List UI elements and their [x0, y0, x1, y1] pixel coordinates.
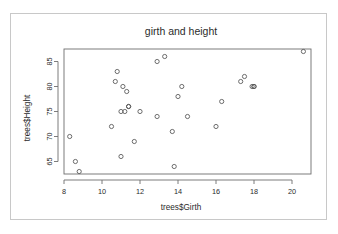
y-axis-title: trees$Height	[23, 94, 32, 141]
y-axis-tick-label: 85	[45, 57, 54, 65]
scatter-point	[180, 84, 184, 88]
y-axis-tick-label: 80	[45, 82, 54, 90]
scatter-point	[125, 89, 129, 93]
x-axis-tick-label: 10	[98, 187, 106, 196]
scatter-point	[242, 74, 246, 78]
plot-card: girth and height trees$Girth trees$Heigh…	[10, 13, 327, 220]
x-axis: 8101214161820	[62, 180, 296, 196]
y-axis-tick-label: 75	[45, 107, 54, 115]
scatter-point	[138, 109, 142, 113]
chart-title: girth and height	[145, 25, 217, 37]
x-axis-tick-label: 12	[136, 187, 144, 196]
scatter-point	[73, 159, 77, 163]
scatter-point	[176, 94, 180, 98]
scatter-point	[155, 114, 159, 118]
y-axis: 6570758085	[45, 57, 59, 165]
scatter-point	[119, 154, 123, 158]
plot-canvas: girth and height trees$Girth trees$Heigh…	[11, 14, 328, 221]
scatter-point	[132, 139, 136, 143]
x-axis-tick-label: 16	[212, 187, 220, 196]
scatter-point	[127, 104, 131, 108]
scatter-point	[185, 114, 189, 118]
scatter-point	[115, 69, 119, 73]
scatter-point	[68, 134, 72, 138]
screenshot-root: girth and height trees$Girth trees$Heigh…	[0, 0, 338, 234]
scatter-point	[172, 164, 176, 168]
scatter-point	[77, 169, 81, 173]
scatter-point	[163, 54, 167, 58]
scatter-point	[113, 79, 117, 83]
scatter-point	[220, 99, 224, 103]
y-axis-tick-label: 70	[45, 132, 54, 140]
scatter-point	[301, 49, 305, 53]
r-scatter-plot: girth and height trees$Girth trees$Heigh…	[11, 14, 328, 221]
scatter-point	[214, 124, 218, 128]
scatter-point	[155, 59, 159, 63]
x-axis-title: trees$Girth	[161, 203, 202, 212]
scatter-point	[109, 124, 113, 128]
x-axis-tick-label: 14	[174, 187, 182, 196]
x-axis-tick-label: 8	[62, 187, 66, 196]
scatter-point	[239, 79, 243, 83]
data-points-layer	[68, 49, 306, 173]
y-axis-tick-label: 65	[45, 157, 54, 165]
x-axis-tick-label: 18	[250, 187, 258, 196]
scatter-point	[121, 84, 125, 88]
plot-frame	[64, 49, 311, 174]
scatter-point	[170, 129, 174, 133]
x-axis-tick-label: 20	[288, 187, 296, 196]
